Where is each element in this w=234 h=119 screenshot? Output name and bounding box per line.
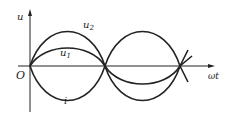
u1-label: u1 — [60, 47, 71, 60]
x-axis-label: ωt — [208, 71, 219, 81]
y-axis-label: u — [17, 11, 23, 22]
waveform-diagram: u O ωt u2 u1 i — [0, 0, 234, 119]
x-axis-arrow-icon — [208, 64, 215, 68]
y-axis-arrow-icon — [28, 9, 32, 16]
i-label: i — [64, 95, 67, 106]
u2-label: u2 — [83, 19, 94, 32]
origin-label: O — [16, 69, 25, 82]
